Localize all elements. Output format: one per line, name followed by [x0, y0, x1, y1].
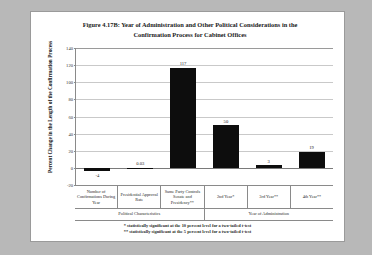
bar[interactable]: [84, 168, 110, 171]
category-label: 2nd Year*: [205, 186, 248, 208]
chart-title-line-1: Figure 4.17B: Year of Administration and…: [57, 20, 323, 30]
y-tick-label: 140: [66, 46, 73, 51]
bar-value-label: 0.03: [136, 161, 144, 166]
bar-slot[interactable]: 19: [290, 48, 333, 185]
bar-value-label: 19: [309, 145, 314, 150]
bar-value-label: 50: [224, 119, 229, 124]
bar[interactable]: [170, 68, 196, 168]
bar-value-label: 3: [268, 159, 270, 164]
figure-card: Figure 4.17B: Year of Administration and…: [30, 11, 345, 242]
plot-area: -20020406080100120140-40.0311750319: [75, 48, 333, 185]
bar-value-label: 117: [180, 61, 187, 66]
bar-slot[interactable]: 0.03: [119, 48, 162, 185]
bar[interactable]: [127, 168, 153, 169]
bar[interactable]: [256, 165, 282, 168]
category-label: 4th Year**: [291, 186, 333, 208]
footnotes: * statistically significant at the 10 pe…: [31, 223, 344, 235]
footnote-double-asterisk: ** statistically significant at the 5 pe…: [31, 229, 344, 235]
y-tick-label: 40: [68, 131, 73, 136]
bar-slot[interactable]: -4: [76, 48, 119, 185]
y-tick-label: 80: [68, 97, 73, 102]
y-tick-label: 0: [71, 165, 73, 170]
y-tick-label: 60: [68, 114, 73, 119]
y-tick-label: -20: [67, 183, 73, 188]
bar-value-label: -4: [95, 173, 99, 178]
y-tick-label: 20: [68, 148, 73, 153]
bar-slot[interactable]: 3: [247, 48, 290, 185]
category-label: Number of Confirmations During Year: [75, 186, 118, 208]
category-axis: Number of Confirmations During YearPresi…: [75, 185, 333, 209]
bar[interactable]: [299, 152, 325, 168]
chart-title-line-2: Confirmation Process for Cabinet Offices: [57, 30, 323, 40]
group-axis: Political CharacteristicsYear of Adminis…: [75, 207, 333, 221]
bar-slot[interactable]: 117: [162, 48, 205, 185]
category-label: Presidential Approval Rate: [118, 186, 161, 208]
category-label: 3rd Year**: [248, 186, 291, 208]
bar[interactable]: [213, 125, 239, 168]
bar-slot[interactable]: 50: [205, 48, 248, 185]
group-label: Year of Administration: [205, 207, 334, 220]
y-tick-label: 120: [66, 63, 73, 68]
group-label: Political Characteristics: [75, 207, 205, 220]
y-axis-title: Percent Change in the Length of the Conf…: [47, 32, 53, 182]
category-label: Same Party Controls Senate and Presidenc…: [161, 186, 204, 208]
y-tick-label: 100: [66, 80, 73, 85]
plot-wrap: -20020406080100120140-40.0311750319: [75, 48, 333, 185]
page-title: Figure 4.17B: Year of Administration and…: [57, 20, 323, 39]
